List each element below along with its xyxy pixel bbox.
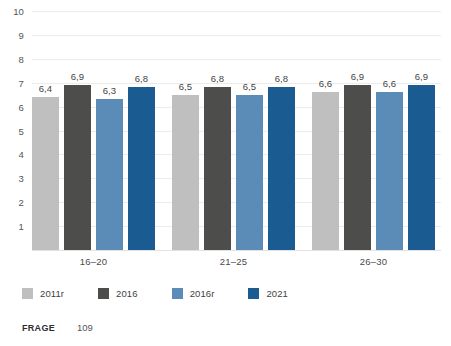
legend-item[interactable]: 2016r bbox=[172, 288, 215, 299]
y-tick-label: 10 bbox=[13, 6, 24, 17]
legend-item[interactable]: 2016 bbox=[98, 288, 138, 299]
y-tick-label: 8 bbox=[19, 53, 24, 64]
bar[interactable] bbox=[64, 85, 91, 250]
y-tick-label: 3 bbox=[19, 173, 24, 184]
axis-baseline bbox=[32, 250, 441, 251]
y-tick-label: 4 bbox=[19, 149, 24, 160]
bar[interactable] bbox=[344, 85, 371, 250]
legend-swatch bbox=[172, 288, 183, 299]
bar[interactable] bbox=[128, 87, 155, 250]
bar-group: 6,56,86,56,8 bbox=[172, 11, 295, 250]
legend-swatch bbox=[98, 288, 109, 299]
bar[interactable] bbox=[268, 87, 295, 250]
bar-value-label: 6,3 bbox=[90, 85, 130, 96]
legend-label: 2016r bbox=[190, 288, 215, 299]
bar-group: 6,66,96,66,9 bbox=[312, 11, 435, 250]
bar-value-label: 6,9 bbox=[58, 71, 98, 82]
legend-item[interactable]: 2021 bbox=[248, 288, 288, 299]
y-tick-label: 5 bbox=[19, 125, 24, 136]
bar-chart: 12345678910 6,46,96,36,86,56,86,56,86,66… bbox=[0, 0, 451, 346]
y-tick-label: 1 bbox=[19, 221, 24, 232]
y-tick-label: 2 bbox=[19, 197, 24, 208]
legend: 2011r20162016r2021 bbox=[22, 288, 322, 299]
x-category-label: 16–20 bbox=[24, 256, 164, 267]
legend-swatch bbox=[22, 288, 33, 299]
bar-group: 6,46,96,36,8 bbox=[32, 11, 155, 250]
y-tick-label: 9 bbox=[19, 29, 24, 40]
x-category-label: 21–25 bbox=[164, 256, 304, 267]
legend-item[interactable]: 2011r bbox=[22, 288, 64, 299]
bar-value-label: 6,8 bbox=[262, 73, 302, 84]
y-tick-label: 6 bbox=[19, 101, 24, 112]
y-tick-label: 7 bbox=[19, 77, 24, 88]
bar[interactable] bbox=[172, 95, 199, 250]
footer-label: FRAGE bbox=[22, 323, 55, 333]
bar[interactable] bbox=[96, 99, 123, 250]
plot-area: 6,46,96,36,86,56,86,56,86,66,96,66,9 bbox=[32, 11, 441, 250]
legend-label: 2021 bbox=[266, 288, 288, 299]
bar-value-label: 6,8 bbox=[122, 73, 162, 84]
bar[interactable] bbox=[408, 85, 435, 250]
bar-value-label: 6,4 bbox=[26, 83, 66, 94]
bar[interactable] bbox=[236, 95, 263, 250]
bar[interactable] bbox=[312, 92, 339, 250]
bar[interactable] bbox=[204, 87, 231, 250]
y-axis: 12345678910 bbox=[0, 11, 28, 250]
bar-value-label: 6,9 bbox=[402, 71, 442, 82]
x-category-label: 26–30 bbox=[304, 256, 444, 267]
legend-label: 2016 bbox=[116, 288, 138, 299]
footer: FRAGE 109 bbox=[22, 322, 93, 333]
legend-label: 2011r bbox=[40, 288, 64, 299]
bar[interactable] bbox=[32, 97, 59, 250]
legend-swatch bbox=[248, 288, 259, 299]
bar[interactable] bbox=[376, 92, 403, 250]
footer-value: 109 bbox=[77, 322, 93, 333]
